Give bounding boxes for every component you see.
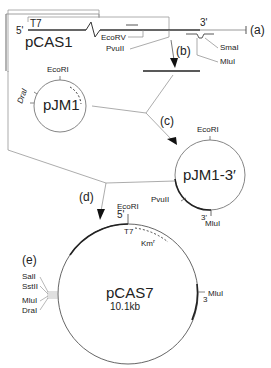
site-mlui: MluI [220, 57, 235, 66]
pjm1-name: pJM1 [43, 96, 80, 113]
site-ecorv: EcoRV [101, 33, 126, 42]
pcas7-t7-label: T7 [124, 227, 134, 236]
step-c-label: (c) [160, 114, 174, 128]
step-e-label: (e) [22, 253, 37, 267]
pcas7-site-mlui: MluI [208, 289, 223, 298]
pjm1-3-name: pJM1-3′ [183, 166, 236, 183]
step-b-label: (b) [176, 44, 191, 58]
pcas1-t7-label: T7 [30, 18, 42, 29]
step-d-arrowhead [97, 209, 105, 220]
pjm1-3-site-mlui: MluI [205, 219, 220, 228]
pcas7-name: pCAS7 [106, 284, 154, 301]
step-d-label: (d) [79, 190, 94, 204]
polylinker-site-sali: SalI [22, 272, 36, 281]
pcas1-five-prime-label: 5' [16, 25, 24, 36]
pjm1-site-drai: DraI [15, 87, 29, 105]
pjm1-3-site-ecori: EcoRI [197, 125, 219, 134]
polylinker-site-sstii: SstII [22, 282, 38, 291]
step-a-label: (a) [250, 23, 265, 37]
pcas1-three-prime-label: 3' [200, 17, 208, 28]
step-c-connector [92, 75, 173, 140]
pcas7-marker-label: Kmr [141, 238, 155, 248]
pcas7-size: 10.1kb [110, 301, 140, 312]
polylinker-site-mlui: MluI [22, 296, 37, 305]
pjm1-site-ecori: EcoRI [47, 65, 69, 74]
pjm1-3-site-pvuii: PvuII [151, 195, 169, 204]
pcas7-five-prime: 5' [117, 209, 125, 220]
pcas1-name: pCAS1 [25, 33, 73, 50]
construction-diagram: 5' T7 pCAS1 3' EcoRV PvuII SmaI MluI (a)… [0, 0, 271, 368]
site-pvuii: PvuII [106, 44, 124, 53]
site-smai: SmaI [220, 43, 239, 52]
polylinker-site-drai: DraI [22, 306, 37, 315]
step-c-arrowhead [167, 137, 177, 145]
